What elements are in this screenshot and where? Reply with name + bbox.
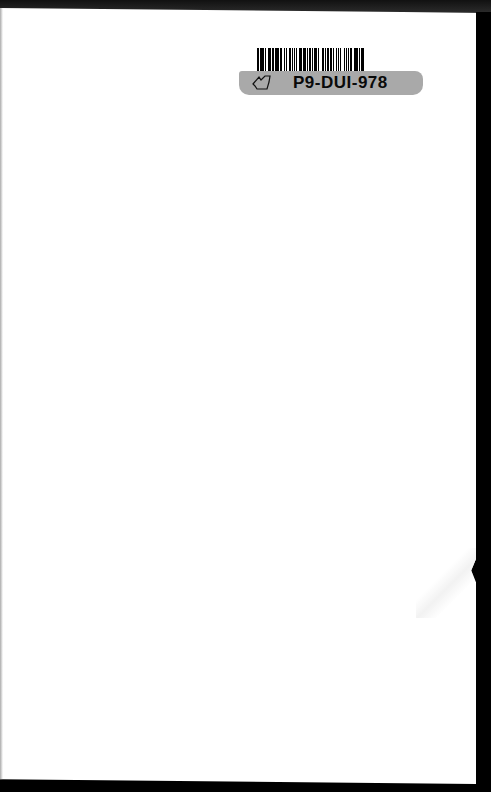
sticker-code: P9-DUI-978 — [293, 73, 388, 93]
label-strip: P9-DUI-978 — [239, 71, 423, 95]
barcode-sticker: P9-DUI-978 — [239, 48, 423, 96]
barcode-bar — [364, 48, 366, 72]
book-page: P9-DUI-978 — [0, 8, 476, 784]
page-fold-crease — [416, 548, 476, 618]
barcode — [257, 48, 407, 72]
hand-pointer-icon — [251, 74, 273, 92]
page-left-shadow — [0, 8, 3, 784]
